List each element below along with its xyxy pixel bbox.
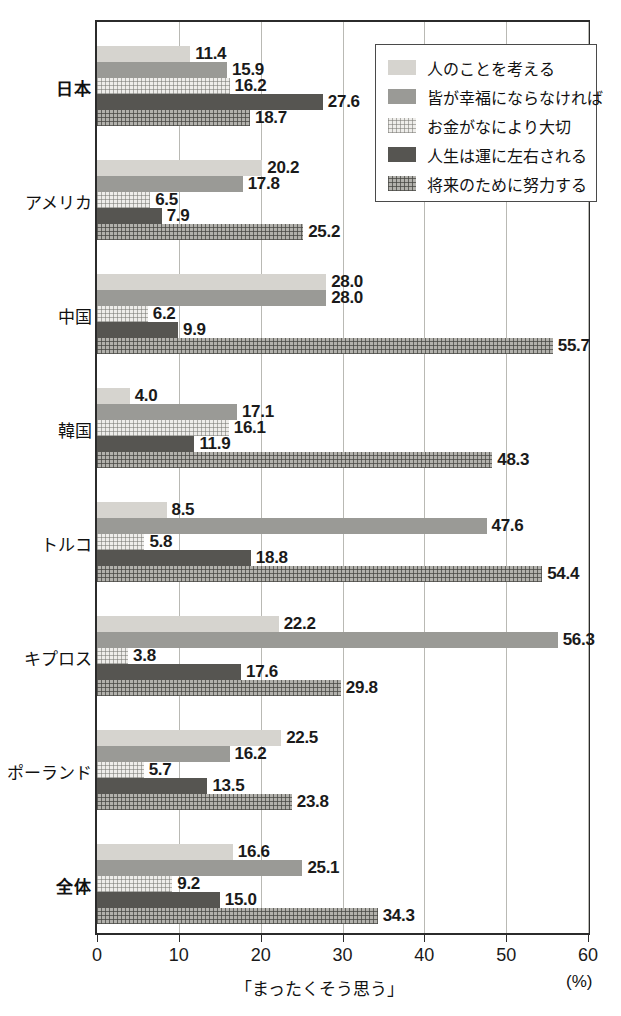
bar-value-label: 56.3 [563, 630, 595, 650]
bar[interactable] [97, 876, 172, 892]
bar-value-label: 25.1 [307, 858, 339, 878]
bar[interactable] [97, 192, 150, 208]
bar-row: 54.4 [97, 566, 588, 582]
bar-row: 13.5 [97, 778, 588, 794]
bar-row: 3.8 [97, 648, 588, 664]
bar[interactable] [97, 290, 326, 306]
bar-row: 16.1 [97, 420, 588, 436]
bar[interactable] [97, 892, 220, 908]
bar[interactable] [97, 664, 241, 680]
bar[interactable] [97, 46, 190, 62]
bar[interactable] [97, 208, 162, 224]
x-tick-label-50: 50 [496, 945, 516, 966]
bar[interactable] [97, 306, 148, 322]
bar-value-label: 48.3 [497, 450, 529, 470]
bar[interactable] [97, 110, 250, 126]
bar-value-label: 5.8 [149, 532, 172, 552]
bar[interactable] [97, 94, 323, 110]
bar-value-label: 9.2 [177, 874, 200, 894]
bar[interactable] [97, 404, 237, 420]
bar-group: 16.625.19.215.034.3 [97, 844, 588, 924]
bar[interactable] [97, 62, 227, 78]
bar-value-label: 18.7 [255, 108, 287, 128]
legend-item[interactable]: 人生は運に左右される [388, 140, 596, 169]
legend-swatch-icon [388, 147, 416, 162]
legend-item[interactable]: お金がなにより大切 [388, 111, 596, 140]
category-label-7: 全体 [0, 873, 92, 898]
x-tick-50 [506, 935, 507, 942]
bar[interactable] [97, 160, 262, 176]
legend-label: 将来のために努力する [427, 172, 587, 196]
bar[interactable] [97, 388, 130, 404]
category-label-0: 日本 [0, 75, 92, 100]
bar-group: 22.516.25.713.523.8 [97, 730, 588, 810]
category-label-5: キプロス [0, 645, 92, 670]
bar-row: 5.7 [97, 762, 588, 778]
bar-row: 6.2 [97, 306, 588, 322]
bar[interactable] [97, 844, 233, 860]
legend-swatch-icon [388, 89, 416, 104]
bar[interactable] [97, 794, 292, 810]
bar[interactable] [97, 274, 326, 290]
legend: 人のことを考える皆が幸福にならなければお金がなにより大切人生は運に左右される将来… [375, 44, 597, 202]
bar-row: 55.7 [97, 338, 588, 354]
bar[interactable] [97, 616, 279, 632]
legend-swatch-icon [388, 118, 416, 133]
legend-item[interactable]: 将来のために努力する [388, 169, 596, 198]
bar-row: 18.8 [97, 550, 588, 566]
bar-group: 8.547.65.818.854.4 [97, 502, 588, 582]
bar-row: 9.2 [97, 876, 588, 892]
bar-value-label: 22.2 [284, 614, 316, 634]
category-label-6: ポーランド [0, 759, 92, 784]
bar[interactable] [97, 566, 542, 582]
bar-value-label: 29.8 [346, 678, 378, 698]
bar-row: 15.0 [97, 892, 588, 908]
bar[interactable] [97, 502, 167, 518]
bar-value-label: 8.5 [172, 500, 195, 520]
bar[interactable] [97, 224, 303, 240]
legend-swatch-icon [388, 176, 416, 191]
bar-value-label: 16.1 [234, 418, 266, 438]
bar[interactable] [97, 680, 341, 696]
x-tick-30 [343, 935, 344, 942]
bar[interactable] [97, 632, 558, 648]
legend-label: 人生は運に左右される [427, 143, 587, 167]
category-label-2: 中国 [0, 303, 92, 328]
bar[interactable] [97, 762, 144, 778]
legend-item[interactable]: 皆が幸福にならなければ [388, 82, 596, 111]
x-tick-label-60: 60 [578, 945, 598, 966]
bar-value-label: 17.8 [248, 174, 280, 194]
bar[interactable] [97, 78, 230, 94]
bar[interactable] [97, 908, 378, 924]
bar[interactable] [97, 436, 194, 452]
bar[interactable] [97, 322, 178, 338]
bar-row: 17.6 [97, 664, 588, 680]
bar[interactable] [97, 452, 492, 468]
bar-row: 22.2 [97, 616, 588, 632]
x-axis-title: 「まったくそう思う」 [235, 975, 404, 1000]
bar[interactable] [97, 338, 553, 354]
bar-row: 22.5 [97, 730, 588, 746]
bar-value-label: 47.6 [492, 516, 524, 536]
bar-value-label: 34.3 [383, 906, 415, 926]
legend-item[interactable]: 人のことを考える [388, 53, 596, 82]
legend-swatch-icon [388, 60, 416, 75]
bar-value-label: 55.7 [558, 336, 590, 356]
category-label-4: トルコ [0, 531, 92, 556]
x-tick-10 [179, 935, 180, 942]
bar[interactable] [97, 778, 207, 794]
legend-label: 皆が幸福にならなければ [427, 85, 603, 109]
bar-value-label: 11.9 [199, 434, 230, 454]
bar[interactable] [97, 550, 251, 566]
bar[interactable] [97, 648, 128, 664]
bar-value-label: 27.6 [328, 92, 360, 112]
x-tick-0 [97, 935, 98, 942]
bar-value-label: 7.9 [167, 206, 190, 226]
bar-value-label: 16.2 [235, 744, 267, 764]
bar-value-label: 15.0 [225, 890, 257, 910]
bar[interactable] [97, 534, 144, 550]
bar-row: 29.8 [97, 680, 588, 696]
bar-value-label: 5.7 [149, 760, 172, 780]
bar-value-label: 17.6 [246, 662, 278, 682]
bar-value-label: 9.9 [183, 320, 206, 340]
